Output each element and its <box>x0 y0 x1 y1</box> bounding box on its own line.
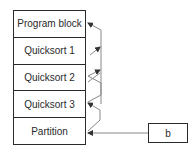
link-arrow-to-program-block <box>88 23 101 30</box>
link-arrows <box>0 0 196 152</box>
link-arrow-partition-to-quicksort3 <box>88 103 100 131</box>
link-arrow-quicksort3-to-quicksort2 <box>88 76 101 102</box>
link-arrow-to-quicksort1 <box>90 47 100 55</box>
link-arrow-head-quicksort2 <box>88 70 100 76</box>
